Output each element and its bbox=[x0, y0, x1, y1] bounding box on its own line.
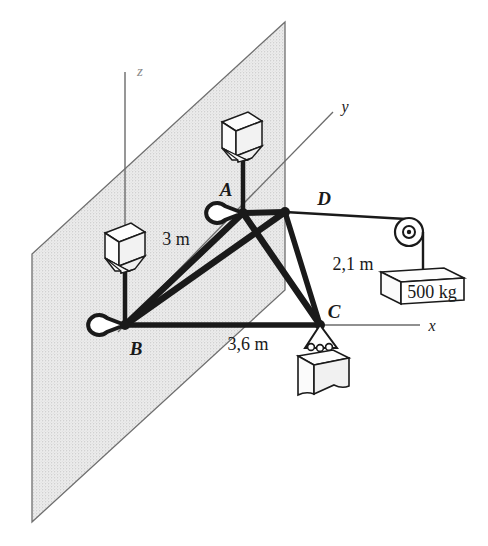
y-axis-label: y bbox=[339, 98, 349, 116]
load-box-500kg: 500 kg bbox=[381, 268, 464, 304]
figure-root: z y x bbox=[0, 0, 488, 546]
joint-label-c: C bbox=[328, 301, 341, 322]
dimension-label-bc: 3,6 m bbox=[227, 334, 268, 354]
hanging-block-c bbox=[298, 325, 349, 395]
member-dc bbox=[285, 212, 320, 325]
dimension-label-ab: 3 m bbox=[162, 229, 190, 249]
pulley bbox=[395, 218, 423, 246]
cable-d-to-pulley bbox=[285, 212, 406, 219]
shaded-plane bbox=[32, 22, 285, 522]
joint-node-a bbox=[238, 208, 248, 218]
x-axis-label: x bbox=[427, 317, 435, 334]
joint-label-d: D bbox=[316, 188, 331, 209]
joint-node-b bbox=[120, 320, 130, 330]
joint-label-b: B bbox=[129, 338, 143, 359]
z-axis-label: z bbox=[136, 63, 143, 79]
joint-label-a: A bbox=[219, 179, 233, 200]
load-box-500kg-label: 500 kg bbox=[407, 282, 457, 302]
dimension-label-dc: 2,1 m bbox=[332, 254, 373, 274]
statics-diagram: z y x bbox=[0, 0, 488, 546]
